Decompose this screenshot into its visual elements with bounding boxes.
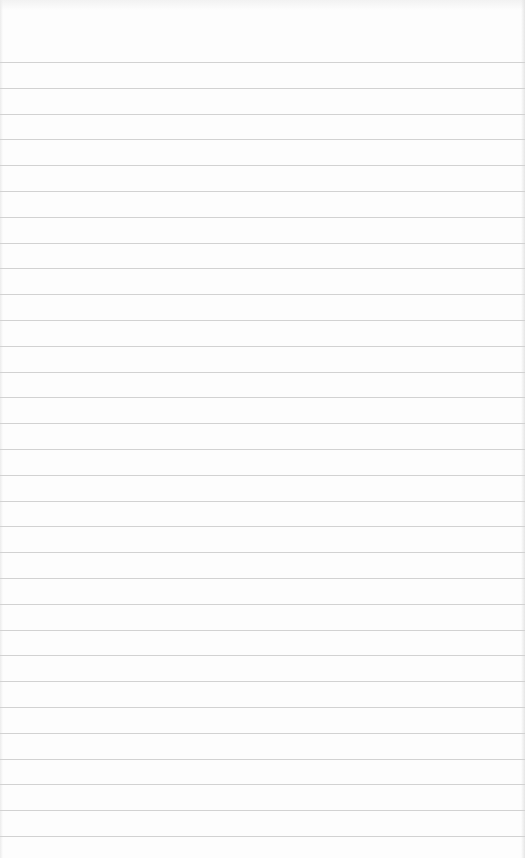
ruled-line <box>0 449 525 450</box>
ruled-line <box>0 88 525 89</box>
ruled-line <box>0 526 525 527</box>
ruled-line <box>0 372 525 373</box>
ruled-line <box>0 397 525 398</box>
ruled-line <box>0 681 525 682</box>
ruled-line <box>0 810 525 811</box>
ruled-line <box>0 475 525 476</box>
ruled-line <box>0 346 525 347</box>
top-edge-shadow <box>0 0 525 10</box>
ruled-line <box>0 191 525 192</box>
ruled-line <box>0 268 525 269</box>
ruled-line <box>0 243 525 244</box>
left-edge-shadow <box>0 0 3 858</box>
ruled-line <box>0 501 525 502</box>
ruled-line <box>0 630 525 631</box>
ruled-line <box>0 604 525 605</box>
ruled-line <box>0 552 525 553</box>
ruled-line <box>0 294 525 295</box>
ruled-line <box>0 759 525 760</box>
ruled-line <box>0 114 525 115</box>
ruled-line <box>0 139 525 140</box>
ruled-line <box>0 165 525 166</box>
ruled-line <box>0 733 525 734</box>
ruled-line <box>0 784 525 785</box>
ruled-line <box>0 320 525 321</box>
ruled-line <box>0 578 525 579</box>
ruled-line <box>0 836 525 837</box>
ruled-line <box>0 423 525 424</box>
ruled-paper-sheet <box>0 0 525 858</box>
ruled-line <box>0 217 525 218</box>
right-edge-shadow <box>521 0 525 858</box>
ruled-line <box>0 62 525 63</box>
ruled-line <box>0 707 525 708</box>
ruled-line <box>0 655 525 656</box>
